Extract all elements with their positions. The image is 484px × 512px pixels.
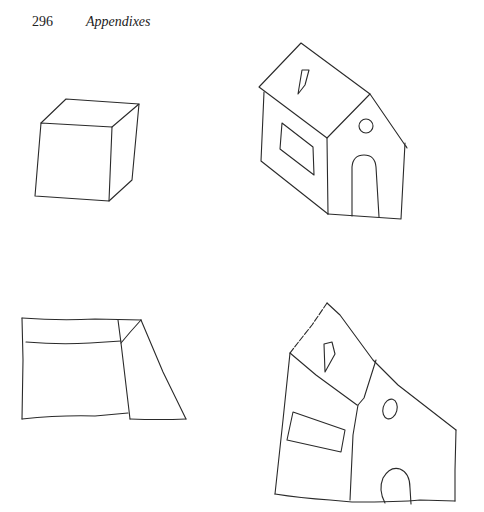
copy-house-drawing bbox=[275, 303, 456, 504]
copy-cube-drawing bbox=[22, 318, 186, 420]
figures-canvas bbox=[0, 0, 484, 512]
model-house-drawing bbox=[259, 43, 407, 219]
model-cube-drawing bbox=[35, 99, 139, 201]
